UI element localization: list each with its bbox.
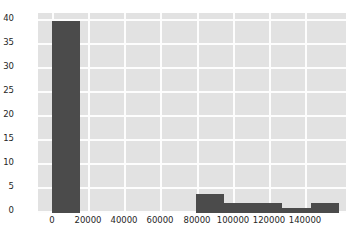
x-tick-label-60000: 60000 <box>146 216 173 225</box>
x-tick-label-0: 0 <box>49 216 54 225</box>
x-tick-label-120000: 120000 <box>253 216 285 225</box>
y-tick-label-0: 0 <box>9 206 14 215</box>
gridline-x-60000 <box>160 13 162 213</box>
y-tick-label-5: 5 <box>9 182 14 191</box>
x-tick-label-100000: 100000 <box>217 216 249 225</box>
histogram-bar <box>224 203 253 213</box>
histogram-figure: 40 35 30 25 20 15 10 5 0 0 20000 40000 6… <box>0 0 361 247</box>
y-tick-label-15: 15 <box>3 134 14 143</box>
gridline-x-120000 <box>269 13 271 213</box>
y-tick-label-25: 25 <box>3 86 14 95</box>
gridline-y-35 <box>38 43 346 45</box>
gridline-y-40 <box>38 19 346 21</box>
gridline-y-10 <box>38 163 346 165</box>
gridline-y-15 <box>38 139 346 141</box>
y-tick-label-20: 20 <box>3 110 14 119</box>
gridline-y-5 <box>38 187 346 189</box>
y-tick-label-35: 35 <box>3 38 14 47</box>
y-tick-label-10: 10 <box>3 158 14 167</box>
x-tick-label-140000: 140000 <box>289 216 321 225</box>
x-tick-label-80000: 80000 <box>183 216 210 225</box>
gridline-y-30 <box>38 67 346 69</box>
gridline-x-80000 <box>197 13 199 213</box>
y-tick-label-30: 30 <box>3 62 14 71</box>
histogram-bar <box>282 208 311 213</box>
gridline-x-140000 <box>305 13 307 213</box>
gridline-x-100000 <box>233 13 235 213</box>
histogram-bar <box>253 203 282 213</box>
gridline-x-20000 <box>88 13 90 213</box>
y-tick-label-40: 40 <box>3 14 14 23</box>
x-tick-label-20000: 20000 <box>74 216 101 225</box>
histogram-bar <box>52 21 81 213</box>
gridline-y-20 <box>38 115 346 117</box>
gridline-y-25 <box>38 91 346 93</box>
plot-area <box>38 13 346 213</box>
histogram-bar <box>311 203 340 213</box>
gridline-x-40000 <box>124 13 126 213</box>
x-tick-label-40000: 40000 <box>110 216 137 225</box>
histogram-bar <box>196 194 225 213</box>
